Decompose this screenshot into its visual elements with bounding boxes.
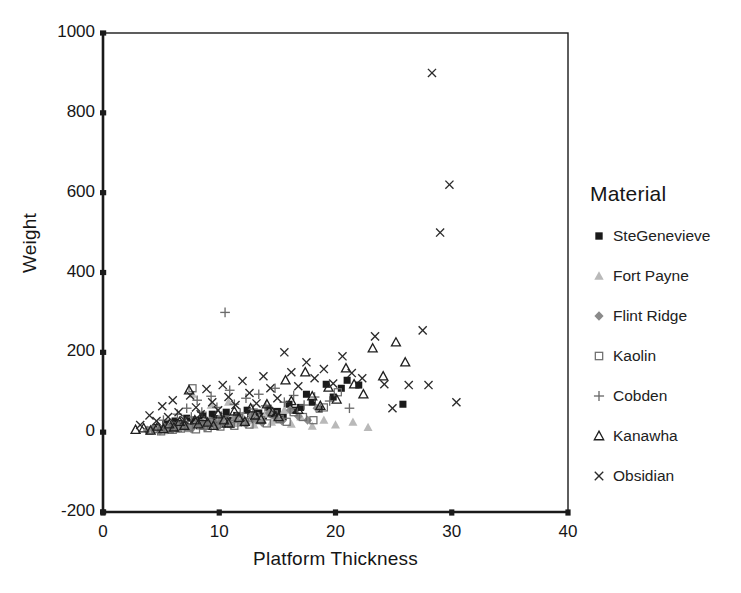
- y-tick-label: 400: [35, 263, 95, 280]
- marker-filled-square: [595, 232, 602, 239]
- marker-x: [329, 379, 337, 387]
- legend-title: Material: [590, 182, 738, 206]
- legend-item-label: Kaolin: [613, 347, 656, 365]
- marker-plus: [220, 308, 230, 318]
- marker-open-triangle: [401, 358, 410, 366]
- legend-marker-filled-square-icon: [588, 225, 610, 247]
- marker-x: [175, 408, 183, 416]
- marker-x: [294, 382, 302, 390]
- marker-x: [280, 348, 288, 356]
- marker-filled-square: [344, 377, 351, 384]
- y-axis-tick: [100, 430, 106, 435]
- y-axis-tick: [100, 190, 106, 195]
- marker-x: [419, 326, 427, 334]
- marker-open-triangle: [594, 431, 603, 440]
- marker-plus: [345, 403, 355, 413]
- marker-x: [380, 380, 388, 388]
- x-axis-tick: [217, 509, 222, 515]
- marker-x: [192, 403, 200, 411]
- marker-x: [371, 332, 379, 340]
- legend-item-stegenevieve[interactable]: SteGenevieve: [588, 220, 738, 252]
- y-tick-label: 600: [35, 183, 95, 200]
- marker-filled-diamond: [594, 311, 603, 321]
- legend-marker-open-square-icon: [588, 345, 610, 367]
- marker-filled-square: [399, 401, 406, 408]
- x-axis-tick: [449, 509, 454, 515]
- marker-x: [169, 396, 177, 404]
- y-axis-tick: [100, 350, 106, 355]
- marker-x: [252, 399, 260, 407]
- series-obsidian: [136, 69, 460, 429]
- marker-x: [273, 394, 281, 402]
- marker-filled-triangle: [319, 416, 328, 424]
- legend-marker-open-triangle-icon: [588, 425, 610, 447]
- marker-x: [424, 381, 432, 389]
- y-tick-label: 200: [35, 342, 95, 359]
- legend-item-label: Flint Ridge: [613, 307, 687, 325]
- plot-frame: [103, 33, 568, 512]
- legend-marker-plus-icon: [588, 385, 610, 407]
- x-tick-label: 0: [78, 522, 128, 542]
- x-axis-tick: [100, 509, 105, 515]
- legend-item-kanawha[interactable]: Kanawha: [588, 420, 738, 452]
- marker-x: [595, 472, 603, 480]
- marker-filled-triangle: [364, 423, 373, 431]
- marker-plus: [241, 393, 251, 403]
- marker-x: [436, 229, 444, 237]
- marker-x: [302, 358, 310, 366]
- marker-filled-triangle: [287, 420, 296, 428]
- marker-open-triangle: [359, 390, 368, 398]
- marker-x: [452, 398, 460, 406]
- legend-item-label: Fort Payne: [613, 267, 689, 285]
- marker-x: [145, 411, 153, 419]
- y-tick-label: 800: [35, 103, 95, 120]
- marker-x: [259, 372, 267, 380]
- marker-x: [158, 402, 166, 410]
- marker-plus: [594, 391, 604, 401]
- marker-filled-triangle: [594, 271, 603, 280]
- legend-item-obsidian[interactable]: Obsidian: [588, 460, 738, 492]
- marker-x: [338, 352, 346, 360]
- marker-plus: [225, 385, 235, 395]
- marker-x: [348, 369, 356, 377]
- legend-marker-filled-diamond-icon: [588, 305, 610, 327]
- x-tick-label: 20: [311, 522, 361, 542]
- marker-x: [287, 368, 295, 376]
- legend-item-fort-payne[interactable]: Fort Payne: [588, 260, 738, 292]
- marker-x: [202, 385, 210, 393]
- y-tick-label: 0: [35, 422, 95, 439]
- marker-plus: [254, 389, 264, 399]
- marker-open-triangle: [391, 338, 400, 346]
- x-tick-label: 40: [543, 522, 593, 542]
- legend-item-label: Cobden: [613, 387, 667, 405]
- marker-plus: [270, 383, 280, 393]
- legend-item-cobden[interactable]: Cobden: [588, 380, 738, 412]
- legend-item-label: SteGenevieve: [613, 227, 710, 245]
- marker-x: [311, 374, 319, 382]
- y-axis-tick: [100, 30, 106, 35]
- marker-x: [405, 381, 413, 389]
- legend-item-label: Obsidian: [613, 467, 674, 485]
- y-axis-tick: [100, 110, 106, 115]
- marker-filled-triangle: [348, 418, 357, 426]
- legend-item-kaolin[interactable]: Kaolin: [588, 340, 738, 372]
- legend-marker-x-icon: [588, 465, 610, 487]
- legend: Material SteGenevieveFort PayneFlint Rid…: [588, 182, 738, 500]
- x-axis-tick: [333, 509, 338, 515]
- marker-open-triangle: [379, 372, 388, 380]
- marker-x: [388, 404, 396, 412]
- legend-item-flint-ridge[interactable]: Flint Ridge: [588, 300, 738, 332]
- marker-open-square: [595, 352, 602, 359]
- scatter-plot-figure: 10008006004002000-200 010203040 Platform…: [0, 0, 741, 593]
- x-tick-label: 10: [194, 522, 244, 542]
- x-axis-tick: [565, 509, 570, 515]
- marker-x: [358, 374, 366, 382]
- marker-open-triangle: [281, 376, 290, 384]
- y-tick-label: -200: [35, 502, 95, 519]
- y-axis-title: Weight: [19, 153, 41, 333]
- y-axis-tick: [100, 270, 106, 275]
- legend-item-label: Kanawha: [613, 427, 678, 445]
- marker-filled-triangle: [331, 420, 340, 428]
- marker-open-triangle: [368, 344, 377, 352]
- marker-open-triangle: [301, 368, 310, 376]
